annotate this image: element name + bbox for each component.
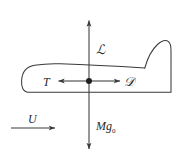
weight-gravity-subscript: 0 <box>112 127 116 135</box>
lift-label: ℒ <box>96 42 106 57</box>
drag-label: 𝒟 <box>124 74 137 89</box>
weight-label: M g 0 <box>95 119 116 135</box>
figure-root: ℒ T 𝒟 M g 0 U <box>0 0 179 158</box>
aircraft-force-diagram: ℒ T 𝒟 M g 0 U <box>0 0 179 158</box>
freestream-label: U <box>28 112 38 126</box>
thrust-label: T <box>43 75 51 89</box>
center-of-mass-dot <box>86 78 92 84</box>
